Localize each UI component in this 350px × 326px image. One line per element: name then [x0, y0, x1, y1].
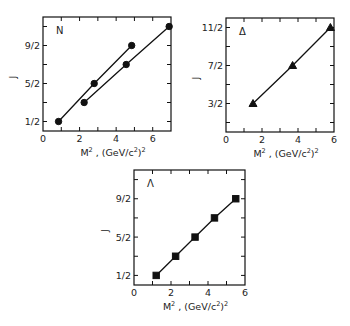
square-marker: [211, 215, 217, 221]
x-tick-label: 0: [40, 133, 46, 144]
delta-chart: 02463/27/211/2ΔJM2 , (GeV/c2)2: [190, 18, 337, 159]
y-tick-label: 1/2: [25, 116, 40, 127]
square-marker: [172, 253, 178, 259]
circle-marker: [55, 118, 61, 124]
square-marker: [233, 196, 239, 202]
x-axis-label: M2 , (GeV/c2)2: [253, 147, 318, 159]
y-tick-label: 5/2: [116, 232, 131, 243]
x-tick-label: 2: [168, 287, 174, 298]
circle-marker: [91, 80, 97, 86]
x-tick-label: 6: [331, 134, 337, 145]
circle-marker: [166, 23, 172, 29]
y-tick-label: 1/2: [116, 270, 131, 281]
y-tick-label: 11/2: [202, 22, 223, 33]
x-tick-label: 6: [242, 287, 248, 298]
x-axis-label: M2 , (GeV/c2)2: [80, 146, 145, 158]
x-tick-label: 4: [295, 134, 301, 145]
circle-marker: [128, 42, 134, 48]
n-chart: 02461/25/29/2NJM2 , (GeV/c2)2: [7, 17, 172, 158]
y-tick-label: 9/2: [25, 40, 40, 51]
x-axis-label: M2 , (GeV/c2)2: [163, 300, 228, 312]
y-axis-label: J: [99, 229, 110, 233]
chart-canvas: 02461/25/29/2NJM2 , (GeV/c2)202463/27/21…: [0, 0, 350, 326]
x-tick-label: 2: [259, 134, 265, 145]
y-tick-label: 5/2: [25, 78, 40, 89]
y-tick-label: 7/2: [208, 60, 223, 71]
x-tick-label: 4: [113, 133, 119, 144]
y-axis-label: J: [190, 77, 201, 81]
y-axis-label: J: [7, 76, 18, 80]
x-tick-label: 4: [205, 287, 211, 298]
lambda-chart: 02461/25/29/2ΛJM2 , (GeV/c2)2: [99, 170, 248, 312]
y-tick-label: 9/2: [116, 193, 131, 204]
square-marker: [153, 272, 159, 278]
panel-label: Λ: [147, 178, 154, 189]
circle-marker: [123, 61, 129, 67]
y-tick-label: 3/2: [208, 98, 223, 109]
panel-label: N: [56, 25, 63, 36]
square-marker: [192, 234, 198, 240]
x-tick-label: 0: [131, 287, 137, 298]
x-tick-label: 0: [223, 134, 229, 145]
x-tick-label: 2: [77, 133, 83, 144]
panel-label: Δ: [239, 26, 246, 37]
circle-marker: [81, 99, 87, 105]
x-tick-label: 6: [150, 133, 156, 144]
